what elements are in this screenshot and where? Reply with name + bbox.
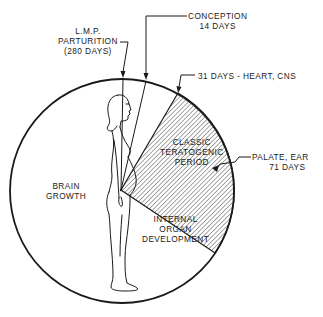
lmp-label: L.M.P. PARTURITION (280 DAYS) <box>58 26 118 56</box>
heart-cns-label: 31 DAYS - HEART, CNS <box>198 71 296 81</box>
lmp-label-line2: PARTURITION <box>58 36 118 46</box>
lmp-arrow-icon <box>121 71 126 78</box>
teratogenic-label-line3: PERIOD <box>160 157 224 167</box>
conception-label-line2: 14 DAYS <box>188 21 247 31</box>
organ-label-line3: DEVELOPMENT <box>142 234 209 244</box>
teratogenic-label-line1: CLASSIC <box>160 137 224 147</box>
conception-arrow-icon <box>144 73 149 80</box>
brain-label-line1: BRAIN <box>46 181 86 191</box>
fan-origin-point <box>120 189 122 191</box>
conception-label-line1: CONCEPTION <box>188 11 247 21</box>
palate-ear-label-line2: 71 DAYS <box>252 162 309 172</box>
organ-label-line2: ORGAN <box>142 224 209 234</box>
heart-cns-arrow-icon <box>177 86 182 93</box>
conception-label: CONCEPTION 14 DAYS <box>188 11 247 31</box>
brain-growth-label: BRAIN GROWTH <box>46 181 86 201</box>
heart-cns-leader-line <box>179 75 195 87</box>
lmp-label-line3: (280 DAYS) <box>58 46 118 56</box>
teratogenic-label-line2: TERATOGENIC <box>160 147 224 157</box>
palate-ear-label: PALATE, EAR 71 DAYS <box>252 152 309 172</box>
brain-label-line2: GROWTH <box>46 191 86 201</box>
lmp-label-line1: L.M.P. <box>58 26 118 36</box>
internal-organ-label: INTERNAL ORGAN DEVELOPMENT <box>142 214 209 244</box>
heart-cns-label-line1: 31 DAYS - HEART, CNS <box>198 71 296 81</box>
lmp-leader-line <box>120 42 128 72</box>
palate-ear-label-line1: PALATE, EAR <box>252 152 309 162</box>
conception-leader-line <box>146 16 187 74</box>
teratogenic-period-label: CLASSIC TERATOGENIC PERIOD <box>160 137 224 167</box>
organ-label-line1: INTERNAL <box>142 214 209 224</box>
